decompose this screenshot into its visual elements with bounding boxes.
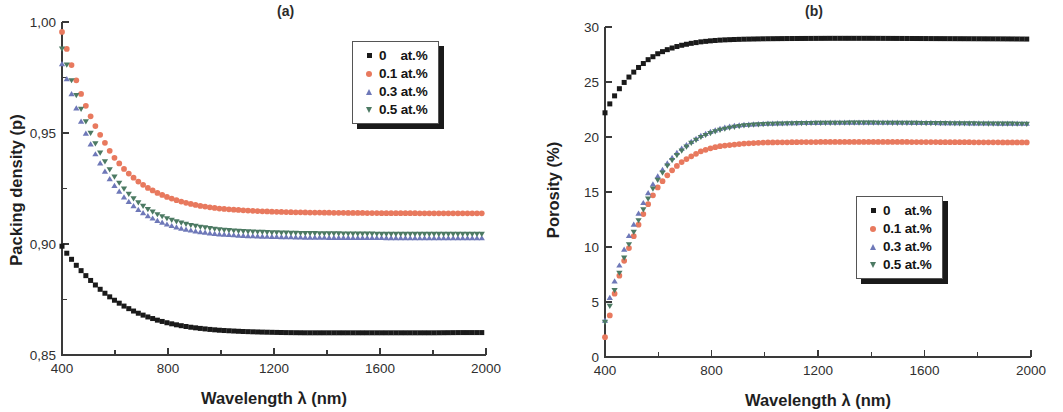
x-tick-label: 2000 [1016, 363, 1046, 378]
x-tick-label: 1200 [259, 361, 289, 376]
legend-item-3[interactable]: 0.5 at.% [359, 101, 428, 118]
y-tick-label: 25 [584, 75, 599, 90]
series-0 [60, 244, 485, 336]
legend-item-2[interactable]: 0.3 at.% [863, 238, 932, 255]
chart-b-legend: 0 at.% 0.1 at.% 0.3 at.% 0.5 at.% [856, 196, 943, 279]
x-tick-label: 400 [51, 361, 74, 376]
legend-marker-square-icon [863, 208, 883, 213]
legend-label-3: 0.5 at.% [379, 102, 428, 117]
y-tick-label: 0,95 [30, 126, 56, 141]
series-1 [602, 139, 1029, 340]
legend-box: 0 at.% 0.1 at.% 0.3 at.% 0.5 at.% [856, 196, 943, 279]
legend-marker-triangle-up-icon [863, 244, 883, 250]
series-3 [602, 121, 1030, 325]
series-0 [603, 36, 1030, 115]
legend-marker-triangle-up-icon [359, 89, 379, 95]
legend-label-1: 0.1 at.% [379, 66, 428, 81]
legend-marker-circle-icon [359, 71, 379, 77]
legend-item-0[interactable]: 0 at.% [359, 47, 428, 64]
y-tick-label: 1,00 [30, 15, 56, 30]
chart-a-plot: 0,850,900,951,00400800120016002000Packin… [0, 0, 531, 412]
x-tick-label: 2000 [471, 361, 501, 376]
legend-label-0: 0 at.% [883, 203, 931, 218]
legend-marker-square-icon [359, 53, 379, 58]
legend-label-2: 0.3 at.% [883, 239, 932, 254]
legend-label-3: 0.5 at.% [883, 257, 932, 272]
series-2 [602, 120, 1030, 323]
legend-box: 0 at.% 0.1 at.% 0.3 at.% 0.5 at.% [352, 41, 439, 124]
legend-marker-triangle-down-icon [359, 107, 379, 113]
x-tick-label: 1200 [803, 363, 833, 378]
legend-marker-triangle-down-icon [863, 262, 883, 268]
x-tick-label: 800 [157, 361, 180, 376]
y-tick-label: 20 [584, 130, 599, 145]
chart-panel-a: (a) 0,850,900,951,00400800120016002000Pa… [0, 0, 531, 412]
legend-item-2[interactable]: 0.3 at.% [359, 83, 428, 100]
legend-marker-circle-icon [863, 226, 883, 232]
y-tick-label: 10 [584, 240, 599, 255]
legend-item-1[interactable]: 0.1 at.% [359, 65, 428, 82]
legend-item-3[interactable]: 0.5 at.% [863, 256, 932, 273]
legend-label-0: 0 at.% [379, 48, 427, 63]
y-axis-title: Packing density (p) [7, 114, 25, 265]
y-tick-label: 5 [591, 295, 599, 310]
legend-item-0[interactable]: 0 at.% [863, 202, 932, 219]
y-tick-label: 15 [584, 185, 599, 200]
legend-item-1[interactable]: 0.1 at.% [863, 220, 932, 237]
x-axis-title: Wavelength λ (nm) [201, 389, 347, 407]
x-tick-label: 1600 [909, 363, 939, 378]
chart-panel-b: (b) 051015202530400800120016002000Porosi… [531, 0, 1063, 412]
figure-container: (a) 0,850,900,951,00400800120016002000Pa… [0, 0, 1063, 412]
y-tick-label: 30 [584, 20, 599, 35]
x-tick-label: 400 [594, 363, 617, 378]
x-tick-label: 800 [700, 363, 723, 378]
chart-a-legend: 0 at.% 0.1 at.% 0.3 at.% 0.5 at.% [352, 41, 439, 124]
y-tick-label: 0,90 [30, 237, 56, 252]
x-axis-title: Wavelength λ (nm) [745, 391, 891, 409]
x-tick-label: 1600 [365, 361, 395, 376]
legend-label-1: 0.1 at.% [883, 221, 932, 236]
y-axis-title: Porosity (%) [544, 142, 562, 238]
chart-b-plot: 051015202530400800120016002000Porosity (… [531, 0, 1063, 412]
legend-label-2: 0.3 at.% [379, 84, 428, 99]
